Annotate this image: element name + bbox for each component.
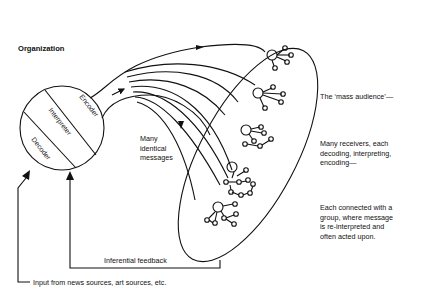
message-path-top [90,45,265,98]
receiver-cluster-4 [224,162,256,197]
mass-audience-annotation: The ‘mass audience’— [320,92,393,102]
feedback-loop [70,178,220,268]
receiver-cluster-5 [205,202,239,227]
receiver-cluster-2 [253,85,285,111]
message-line [127,72,238,102]
feedback-label: Inferential feedback [104,256,167,266]
input-label: Input from news sources, art sources, et… [33,278,166,288]
message-line [129,80,225,115]
group-annotation: Each connected with a group, where messa… [320,203,393,241]
funnel-lower [102,95,210,135]
receivers-annotation: Many receivers, each decoding, interpret… [320,139,391,168]
mass-audience-ellipse [150,28,346,281]
input-line [18,178,30,282]
receiver-cluster-3 [241,125,273,149]
organization-title: Organization [18,44,64,54]
messages-label: Many identical messages [140,134,173,163]
receiver-cluster-1 [267,46,293,71]
